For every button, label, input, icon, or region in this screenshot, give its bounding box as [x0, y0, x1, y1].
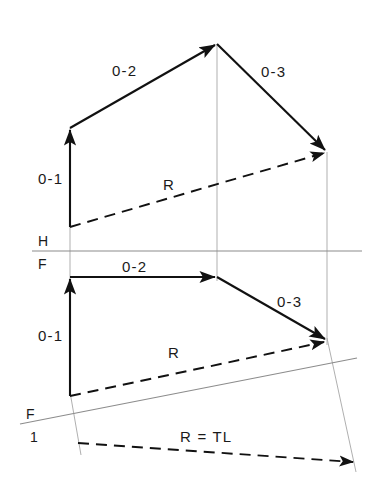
- top-view-vector-03: [217, 44, 325, 150]
- top-view-vector-polygon: [70, 44, 325, 227]
- label-top-view-vector-03: 0-3: [261, 63, 286, 80]
- label-fold-line-f-lower: F: [26, 406, 35, 422]
- label-top-view-vector-01: 0-1: [38, 170, 63, 187]
- label-top-view-resultant: R: [163, 176, 175, 193]
- label-top-view-vector-02: 0-2: [112, 62, 137, 79]
- technical-drawing-figure: 0-1 0-2 0-3 R 0-1 0-2 0-3 R R = TL H F F…: [0, 0, 380, 483]
- top-view-resultant-R: [70, 153, 324, 227]
- label-front-view-vector-03: 0-3: [277, 293, 302, 310]
- auxiliary-view-true-length: [78, 443, 353, 462]
- aux-view-resultant-true-length: [78, 443, 353, 462]
- projector-line-aux-point3: [327, 338, 356, 472]
- front-view-resultant-R: [70, 342, 324, 396]
- projection-lines-group: [70, 44, 356, 472]
- label-aux-view-resultant-true-length: R = TL: [180, 428, 232, 445]
- label-front-view-vector-01: 0-1: [38, 327, 63, 344]
- vector-polygon-drawing: 0-1 0-2 0-3 R 0-1 0-2 0-3 R R = TL H F F…: [0, 0, 380, 483]
- front-view-vector-03: [217, 277, 325, 339]
- top-view-vector-02: [70, 45, 215, 128]
- label-fold-line-h: H: [38, 233, 49, 249]
- label-front-view-vector-02: 0-2: [122, 258, 147, 275]
- label-front-view-resultant: R: [168, 344, 180, 361]
- label-fold-line-f-upper: F: [38, 256, 47, 272]
- label-fold-line-1: 1: [30, 429, 38, 445]
- projector-line-aux-origin: [70, 392, 81, 455]
